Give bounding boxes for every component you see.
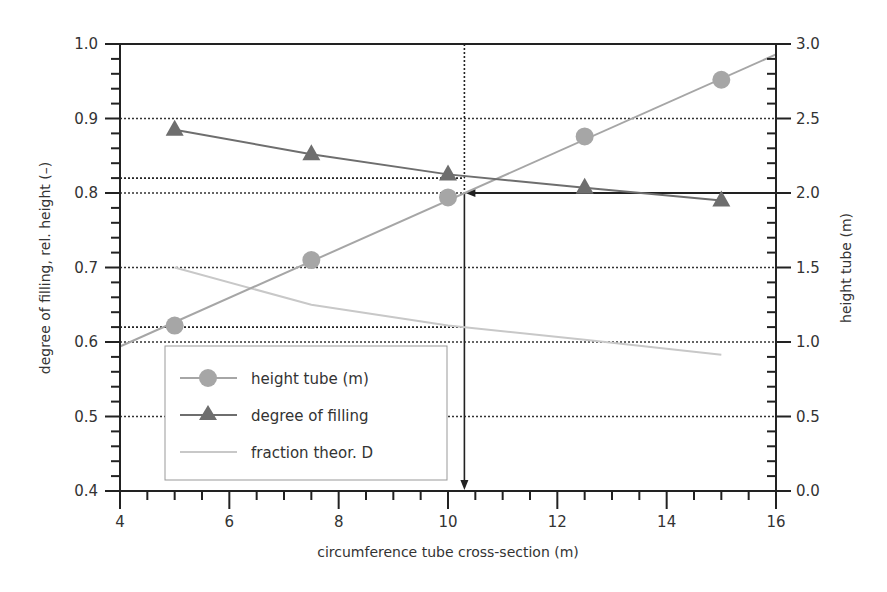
x-tick-label: 12 (548, 513, 567, 531)
x-tick-label: 8 (334, 513, 344, 531)
y-tick-label: 0.9 (74, 110, 98, 128)
y2-tick-label: 2.5 (796, 110, 820, 128)
circle-marker-icon (166, 317, 184, 335)
y2-axis-title: height tube (m) (838, 213, 854, 323)
x-tick-label: 4 (115, 513, 125, 531)
x-axis-title: circumference tube cross-section (m) (317, 544, 579, 560)
y-tick-label: 0.4 (74, 482, 98, 500)
y2-tick-label: 2.0 (796, 184, 820, 202)
y2-tick-label: 1.5 (796, 259, 820, 277)
y-axis-title: degree of filling, rel. height (–) (37, 162, 53, 374)
x-tick-label: 14 (657, 513, 676, 531)
circle-marker-icon (439, 188, 457, 206)
y2-tick-label: 0.0 (796, 482, 820, 500)
triangle-marker-icon (439, 164, 457, 180)
legend-label-fraction-theor-d: fraction theor. D (251, 444, 373, 462)
circle-marker-icon (302, 251, 320, 269)
y-tick-label: 0.5 (74, 408, 98, 426)
circle-marker-icon (576, 127, 594, 145)
y-tick-label: 0.6 (74, 333, 98, 351)
triangle-marker-icon (166, 120, 184, 136)
x-tick-label: 16 (766, 513, 785, 531)
y-tick-label: 0.8 (74, 184, 98, 202)
y2-tick-label: 0.5 (796, 408, 820, 426)
legend: height tube (m) degree of filling fracti… (165, 346, 447, 480)
legend-label-height-tube: height tube (m) (251, 370, 369, 388)
y2-tick-label: 3.0 (796, 35, 820, 53)
dual-axis-line-chart: 0.40.50.60.70.80.91.00.00.51.01.52.02.53… (0, 0, 887, 592)
x-tick-label: 10 (438, 513, 457, 531)
circle-marker-icon (712, 71, 730, 89)
x-tick-label: 6 (225, 513, 235, 531)
legend-label-degree-of-filling: degree of filling (251, 407, 369, 425)
y2-tick-label: 1.0 (796, 333, 820, 351)
arrow-down-icon (460, 480, 468, 490)
y-tick-label: 0.7 (74, 259, 98, 277)
circle-marker-icon (199, 369, 217, 387)
series-layer (120, 54, 776, 354)
triangle-marker-icon (576, 178, 594, 194)
y-tick-label: 1.0 (74, 35, 98, 53)
